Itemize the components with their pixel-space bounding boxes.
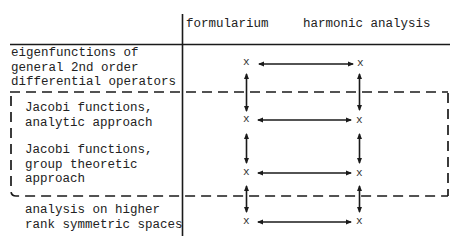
column-header-harmonic-analysis: harmonic analysis (303, 17, 431, 32)
row-label-line: Jacobi functions, (25, 101, 153, 116)
marker-formularium-row4: x (243, 216, 250, 227)
marker-harmonic-row4: x (356, 216, 363, 227)
column-header-formularium: formularium (186, 17, 269, 32)
formularium-harmonic-analysis-diagram: formularium harmonic analysis eigenfunct… (0, 0, 460, 249)
row-label-line: rank symmetric spaces (25, 218, 183, 233)
marker-harmonic-row3: x (356, 168, 363, 179)
marker-harmonic-row2: x (356, 115, 363, 126)
marker-formularium-row3: x (243, 167, 250, 178)
marker-harmonic-row1: x (357, 58, 364, 69)
row-label-line: general 2nd order (11, 61, 139, 76)
row-label-line: group theoretic (25, 158, 138, 173)
row-label-line: differential operators (11, 75, 176, 90)
row-label-line: analytic approach (25, 116, 153, 131)
row-label-line: analysis on higher (25, 203, 160, 218)
row-label-line: Jacobi functions, (25, 143, 153, 158)
row-label-line: approach (25, 172, 85, 187)
marker-formularium-row2: x (243, 114, 250, 125)
row-label-line: eigenfunctions of (11, 46, 139, 61)
horizontal-arrows (258, 64, 353, 222)
marker-formularium-row1: x (243, 57, 250, 68)
